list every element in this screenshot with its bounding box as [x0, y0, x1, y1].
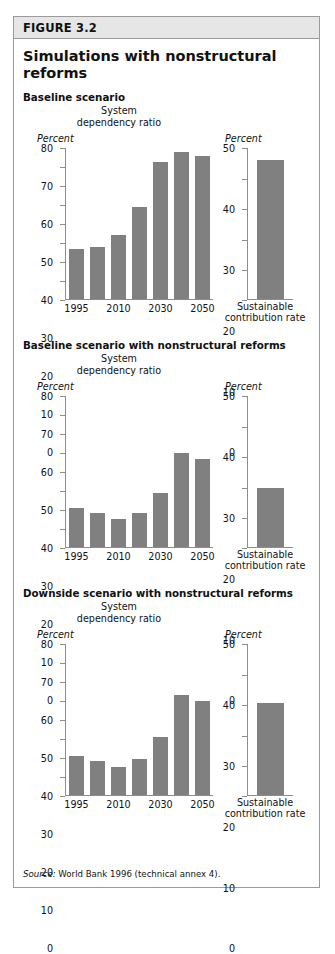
bar — [257, 703, 284, 795]
y-axis-tick: 10 — [242, 270, 247, 271]
y-axis-tick-label: 40 — [223, 700, 235, 711]
y-axis-tick-label: 40 — [41, 543, 53, 554]
y-axis-tick-label: 30 — [223, 512, 235, 523]
panel-heading: Baseline scenario — [23, 91, 310, 103]
panel-body: Systemdependency ratioPercent01020304050… — [23, 599, 310, 827]
x-axis-tick-label: 2010 — [106, 551, 130, 562]
figure-header: FIGURE 3.2 — [14, 17, 319, 39]
sustainable-contribution-rate-chart: Percent01020304050Sustainablecontributio… — [219, 599, 311, 827]
side-chart-caption-line-1: Sustainable — [219, 549, 311, 560]
x-axis-labels: 1995201020302050 — [66, 303, 213, 317]
y-axis-tick: 0 — [60, 796, 65, 797]
y-axis-tick: 40 — [60, 720, 65, 721]
x-axis-line — [65, 795, 213, 796]
chart-subtitle-line-1: System — [23, 353, 215, 364]
y-axis-tick: 40 — [242, 179, 247, 180]
y-axis-tick-label: 60 — [41, 467, 53, 478]
bar — [174, 453, 189, 547]
y-axis-tick: 10 — [60, 777, 65, 778]
x-axis-tick-label: 2030 — [148, 799, 172, 810]
y-axis-tick: 50 — [60, 701, 65, 702]
y-axis-tick-label: 60 — [41, 219, 53, 230]
y-axis-tick: 50 — [242, 644, 247, 645]
x-axis-tick-label: 2050 — [190, 303, 214, 314]
y-axis-tick-label: 40 — [223, 452, 235, 463]
panels-container: Baseline scenarioSystemdependency ratioP… — [14, 91, 319, 827]
chart-subtitle: Systemdependency ratio — [23, 105, 215, 128]
chart-subtitle-line-2: dependency ratio — [23, 613, 215, 624]
bar — [90, 761, 105, 795]
y-axis-tick: 70 — [60, 415, 65, 416]
x-axis-tick-label: 2010 — [106, 799, 130, 810]
x-axis-line — [247, 547, 293, 548]
bar — [153, 162, 168, 300]
y-axis-tick: 30 — [60, 739, 65, 740]
y-axis-tick-label: 20 — [223, 821, 235, 832]
x-axis-labels: 1995201020302050 — [66, 551, 213, 565]
y-axis-tick: 60 — [60, 434, 65, 435]
y-axis-tick: 80 — [60, 644, 65, 645]
bar-group — [66, 644, 213, 795]
bar — [132, 513, 147, 547]
y-axis-tick: 30 — [60, 243, 65, 244]
bar — [69, 756, 84, 796]
y-axis-tick: 50 — [60, 205, 65, 206]
y-axis-tick-label: 10 — [223, 882, 235, 893]
x-axis-line — [247, 795, 293, 796]
panel-heading: Downside scenario with nonstructural ref… — [23, 587, 310, 599]
x-axis-tick-label: 2030 — [148, 303, 172, 314]
y-axis-tick-label: 50 — [41, 257, 53, 268]
y-axis-tick: 50 — [60, 453, 65, 454]
y-axis-tick-label: 70 — [41, 677, 53, 688]
y-axis-tick: 80 — [60, 396, 65, 397]
chart-panel: Downside scenario with nonstructural ref… — [23, 587, 310, 827]
y-axis-tick: 30 — [242, 209, 247, 210]
chart-subtitle-line-1: System — [23, 105, 215, 116]
bar — [195, 156, 210, 299]
y-axis-tick-label: 30 — [41, 829, 53, 840]
plot-area: 01020304050 — [247, 644, 293, 796]
bar — [153, 493, 168, 548]
bar — [132, 759, 147, 795]
bar-group — [66, 148, 213, 299]
bar — [257, 488, 284, 547]
x-axis-labels: 1995201020302050 — [66, 799, 213, 813]
chart-subtitle-line-1: System — [23, 601, 215, 612]
bar-group — [248, 644, 293, 795]
y-axis-tick: 40 — [60, 472, 65, 473]
bar — [174, 152, 189, 299]
y-axis-tick-label: 80 — [41, 391, 53, 402]
y-axis-tick-label: 30 — [223, 760, 235, 771]
chart-subtitle: Systemdependency ratio — [23, 601, 215, 624]
x-axis-tick-label: 2050 — [190, 551, 214, 562]
panel-heading: Baseline scenario with nonstructural ref… — [23, 339, 310, 351]
bar — [90, 513, 105, 547]
y-axis-tick: 10 — [60, 529, 65, 530]
y-axis-tick: 40 — [242, 675, 247, 676]
y-axis-tick-label: 30 — [223, 264, 235, 275]
plot-area: 01020304050 — [247, 148, 293, 300]
y-axis-tick-label: 10 — [41, 905, 53, 916]
side-chart-caption-line-2: contribution rate — [219, 312, 311, 323]
x-axis-tick-label: 1995 — [64, 551, 88, 562]
bar-group — [66, 396, 213, 547]
system-dependency-ratio-chart: Systemdependency ratioPercent01020304050… — [23, 103, 215, 331]
x-axis-line — [65, 547, 213, 548]
y-axis-tick: 20 — [242, 240, 247, 241]
y-axis-tick-label: 20 — [223, 573, 235, 584]
plot-area: 01020304050607080 — [65, 148, 213, 300]
bar — [69, 249, 84, 299]
panel-body: Systemdependency ratioPercent01020304050… — [23, 351, 310, 579]
chart-subtitle-line-2: dependency ratio — [23, 117, 215, 128]
y-axis-tick: 60 — [60, 186, 65, 187]
bar — [90, 247, 105, 299]
bar — [153, 737, 168, 796]
bar — [69, 508, 84, 548]
y-axis-tick: 60 — [60, 682, 65, 683]
side-chart-caption-line-1: Sustainable — [219, 797, 311, 808]
bar — [195, 459, 210, 548]
y-axis-tick: 70 — [60, 663, 65, 664]
y-axis-tick: 20 — [60, 510, 65, 511]
y-axis-tick: 0 — [60, 300, 65, 301]
y-axis-tick: 50 — [242, 148, 247, 149]
